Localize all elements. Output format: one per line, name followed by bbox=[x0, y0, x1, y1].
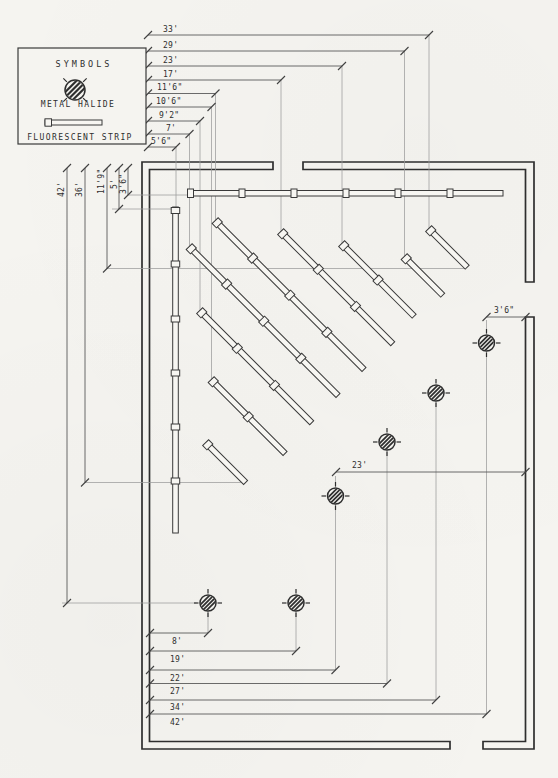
dim-label: 42' bbox=[57, 182, 66, 197]
wall-right-lower bbox=[483, 317, 534, 749]
fluorescent-strip-run-diagonal bbox=[278, 229, 396, 347]
dim-label: 22' bbox=[170, 674, 185, 683]
dim-bottom-42ft: 42' bbox=[146, 710, 491, 727]
fluorescent-strip-run-horizontal bbox=[188, 189, 504, 198]
building-walls bbox=[142, 162, 534, 749]
legend-metal-halide-label: METAL HALIDE bbox=[41, 100, 116, 109]
dim-top-33ft: 33' bbox=[144, 25, 433, 40]
metal-halide-fixture bbox=[194, 589, 222, 617]
dim-bottom-8ft: 8' bbox=[146, 629, 212, 646]
dim-label: 27' bbox=[170, 687, 185, 696]
legend-box: SYMBOLS METAL HALIDE FLUORESCENT STRIP bbox=[18, 48, 146, 144]
fluorescent-strip-run-diagonal bbox=[401, 254, 445, 298]
dimensions-left: 42' 36' 11'9" 5' 3'6" bbox=[57, 164, 132, 607]
legend-title: SYMBOLS bbox=[56, 59, 113, 69]
dim-interior-3ft6in: 3'6" bbox=[483, 306, 530, 322]
dim-label: 36' bbox=[75, 182, 84, 197]
dim-label: 7' bbox=[166, 124, 176, 133]
dim-label: 11'9" bbox=[97, 168, 106, 194]
dim-top-17ft: 17' bbox=[144, 70, 285, 85]
metal-halide-fixture bbox=[473, 329, 501, 357]
metal-halide-fixture bbox=[282, 589, 310, 617]
lighting-plan-sheet: 33' 29' 23' 17' 11'6" 10'6" bbox=[0, 0, 558, 778]
dim-bottom-22ft: 22' bbox=[146, 666, 340, 683]
dim-label: 8' bbox=[172, 637, 182, 646]
dimensions-top: 33' 29' 23' 17' 11'6" 10'6" bbox=[144, 25, 433, 152]
dim-interior-23ft: 23' bbox=[332, 461, 530, 477]
wall-top-right bbox=[303, 162, 534, 282]
metal-halide-fixture bbox=[422, 379, 450, 407]
dim-label: 19' bbox=[170, 655, 185, 664]
dim-label: 42' bbox=[170, 718, 185, 727]
dim-left-36ft: 36' bbox=[75, 164, 89, 487]
dimensions-bottom: 8' 19' 22' 27' 34' 42' bbox=[146, 629, 491, 727]
dim-label: 3'6" bbox=[119, 174, 128, 194]
dim-top-10ft6in: 10'6" bbox=[144, 97, 216, 112]
dim-top-29ft: 29' bbox=[144, 41, 409, 56]
dim-label: 9'2" bbox=[159, 111, 179, 120]
dim-left-3ft6in: 3'6" bbox=[119, 164, 133, 199]
fluorescent-strip-run-diagonal bbox=[197, 308, 315, 426]
dim-label: 17' bbox=[163, 70, 178, 79]
dim-label: 23' bbox=[163, 56, 178, 65]
dim-label: 33' bbox=[163, 25, 178, 34]
dim-label: 29' bbox=[163, 41, 178, 50]
dim-top-11ft6in: 11'6" bbox=[144, 83, 220, 98]
fluorescent-strip-run-vertical bbox=[171, 207, 180, 533]
dim-top-23ft: 23' bbox=[144, 56, 346, 71]
dim-label: 34' bbox=[170, 703, 185, 712]
dim-label: 5' bbox=[110, 179, 119, 189]
dim-label: 5'6" bbox=[151, 137, 171, 146]
lighting-plan-drawing: 33' 29' 23' 17' 11'6" 10'6" bbox=[0, 0, 558, 778]
metal-halide-fixture bbox=[373, 428, 401, 456]
dim-bottom-34ft: 34' bbox=[146, 696, 440, 712]
fluorescent-strip-run-diagonal bbox=[426, 226, 470, 270]
dim-label: 10'6" bbox=[156, 97, 182, 106]
dim-top-5ft6in: 5'6" bbox=[144, 137, 180, 152]
dim-label: 23' bbox=[352, 461, 367, 470]
fluorescent-strip-symbol-icon bbox=[45, 119, 102, 126]
legend-fluorescent-label: FLUORESCENT STRIP bbox=[27, 133, 133, 142]
fluorescent-strip-run-diagonal bbox=[203, 440, 249, 486]
dim-label: 3'6" bbox=[494, 306, 514, 315]
dim-left-42ft: 42' bbox=[57, 164, 71, 607]
metal-halide-fixture bbox=[322, 482, 350, 510]
dim-label: 11'6" bbox=[157, 83, 183, 92]
dim-bottom-19ft: 19' bbox=[146, 647, 300, 664]
